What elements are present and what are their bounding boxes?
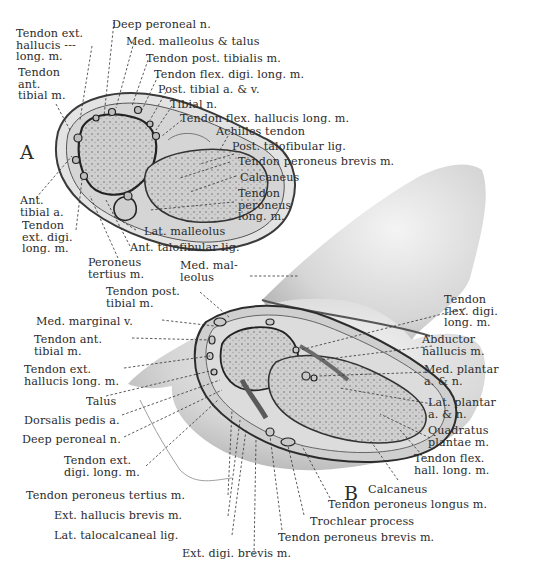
label-b-talus: Talus	[86, 396, 116, 408]
label-a-tibial-n: Tibial n.	[170, 99, 217, 111]
label-b-ext-hallucis-brevis: Ext. hallucis brevis m.	[54, 510, 182, 522]
label-a-tendon-flex-digi-long: Tendon flex. digi. long. m.	[154, 69, 304, 81]
label-a-tendon-ant-tibial: Tendon ant. tibial m.	[18, 67, 66, 102]
label-a-ant-tibial-a: Ant. tibial a.	[20, 195, 64, 218]
label-b-tendon-ant-tibial: Tendon ant. tibial m.	[34, 334, 102, 357]
label-b-tendon-ext-digi-long: Tendon ext. digi. long. m.	[64, 455, 140, 478]
label-a-tendon-flex-hallucis-long: Tendon flex. hallucis long. m.	[180, 113, 349, 125]
label-a-ant-talofibular-lig: Ant. talofibular lig.	[130, 242, 240, 254]
label-b-trochlear-process: Trochlear process	[310, 516, 414, 528]
label-a-tendon-peroneus-long: Tendon peroneus long. m.	[238, 188, 291, 223]
label-a-calcaneus: Calcaneus	[240, 172, 299, 184]
label-b-tendon-post-tibial: Tendon post. tibial m.	[106, 286, 180, 309]
label-b-ext-digi-brevis: Ext. digi. brevis m.	[182, 548, 291, 560]
label-a-post-talofibular-lig: Post. talofibular lig.	[232, 141, 346, 153]
label-b-med-plantar-an: Med. plantar a. & n.	[424, 364, 499, 387]
label-a-tendon-post-tibialis: Tendon post. tibialis m.	[146, 53, 281, 65]
label-a-post-tibial-av: Post. tibial a. & v.	[158, 84, 260, 96]
anatomy-illustration	[0, 0, 544, 574]
label-a-peroneus-tertius: Peroneus tertius m.	[88, 257, 144, 280]
label-b-tendon-peroneus-tertius: Tendon peroneus tertius m.	[26, 490, 185, 502]
label-a-med-malleolus-talus: Med. malleolus & talus	[126, 36, 260, 48]
label-b-calcaneus: Calcaneus	[368, 484, 427, 496]
label-b-dorsalis-pedis-a: Dorsalis pedis a.	[24, 415, 120, 427]
label-b-lat-plantar-an: Lat. plantar a. & n.	[428, 397, 496, 420]
label-b-deep-peroneal-n: Deep peroneal n.	[22, 434, 121, 446]
label-a-med-malleolus: Med. mal- leolus	[180, 260, 238, 283]
label-b-quadratus-plantae: Quadratus plantae m.	[428, 425, 489, 448]
label-b-tendon-ext-hallucis-long: Tendon ext. hallucis long. m.	[24, 364, 119, 387]
label-b-tendon-peroneus-longus: Tendon peroneus longus m.	[328, 499, 487, 511]
label-b-tendon-peroneus-brevis: Tendon peroneus brevis m.	[278, 532, 434, 544]
label-a-tendon-peroneus-brevis: Tendon peroneus brevis m.	[238, 156, 394, 168]
label-b-tendon-flex-digi-long: Tendon flex. digi. long. m.	[444, 294, 498, 329]
label-a-deep-peroneal-n: Deep peroneal n.	[112, 19, 211, 31]
label-b-abductor-hallucis: Abductor hallucis m.	[422, 334, 485, 357]
panel-a-letter: A	[20, 142, 34, 162]
label-a-tendon-ext-digi-long: Tendon ext. digi. long. m.	[22, 220, 73, 255]
label-a-achilles-tendon: Achilles tendon	[216, 126, 305, 138]
label-a-lat-malleolus: Lat. malleolus	[144, 226, 225, 238]
label-a-tendon-ext-hallucis-long: Tendon ext. hallucis --- long. m.	[16, 28, 83, 63]
label-b-tendon-flex-hall-long: Tendon flex. hall. long. m.	[414, 453, 490, 476]
label-b-lat-talocalcaneal-lig: Lat. talocalcaneal lig.	[54, 530, 178, 542]
label-b-med-marginal-v: Med. marginal v.	[36, 316, 133, 328]
